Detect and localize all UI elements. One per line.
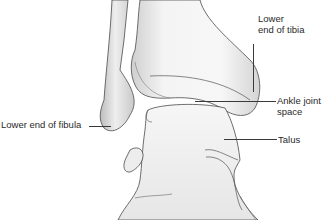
label-tibia-line1: Lower [258,13,304,24]
label-talus: Talus [278,134,300,145]
bone-process [124,148,143,172]
label-ankle-joint-line2: space [277,106,321,117]
leader-talus [224,139,277,140]
label-ankle-joint: Ankle joint space [277,95,321,117]
label-fibula: Lower end of fibula [1,119,81,130]
label-tibia: Lower end of tibia [258,13,304,35]
tibia-bone [131,0,259,115]
label-tibia-line2: end of tibia [258,24,304,35]
leader-fibula [89,126,111,127]
fibula-bone [100,0,134,131]
label-ankle-joint-line1: Ankle joint [277,95,321,106]
leader-ankle-joint [195,101,276,102]
leader-tibia [253,44,254,92]
